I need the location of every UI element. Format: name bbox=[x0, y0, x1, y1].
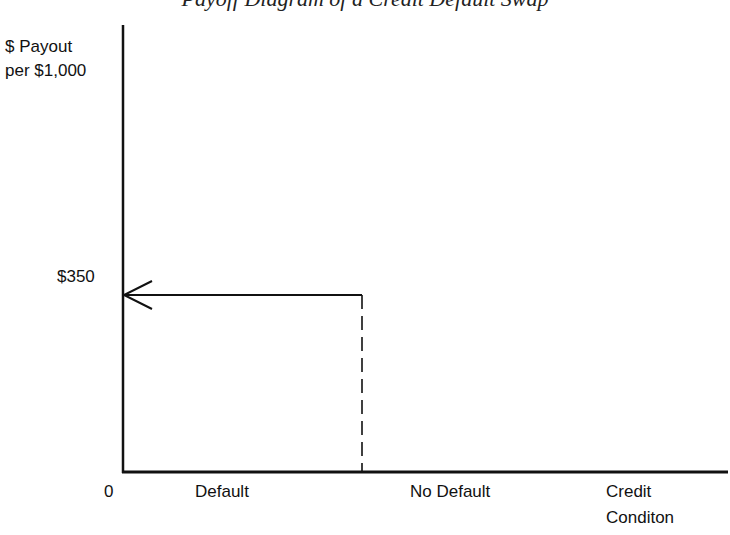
origin-label: 0 bbox=[104, 481, 113, 503]
x-axis-title-line1: Credit bbox=[606, 481, 651, 503]
x-label-default: Default bbox=[195, 481, 249, 503]
x-axis-title-line2: Conditon bbox=[606, 507, 674, 529]
payoff-diagram bbox=[0, 0, 730, 535]
x-label-no-default: No Default bbox=[410, 481, 490, 503]
y-tick-350: $350 bbox=[57, 266, 95, 288]
y-axis-label-line2: per $1,000 bbox=[5, 60, 86, 82]
y-axis-label-line1: $ Payout bbox=[5, 36, 72, 58]
